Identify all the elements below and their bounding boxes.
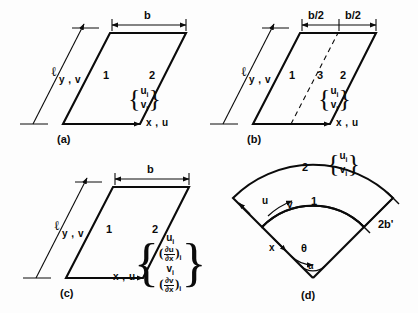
- panel-c-dof-row-v: vi: [166, 263, 174, 277]
- panel-d-theta-label: θ: [301, 243, 307, 254]
- panel-a-dof-close-brace: }: [149, 88, 161, 109]
- panel-c-node-1: 1: [106, 224, 112, 235]
- panel-c-dof-rows: ui (∂u∂x)i vi (∂v∂x)i: [159, 232, 181, 294]
- panel-d-dof-open-brace: {: [327, 153, 339, 174]
- panel-a-dof-vector: { ui vi }: [128, 85, 161, 113]
- panel-b-node-3: 3: [317, 70, 323, 81]
- panel-c-dof-vector: { ui (∂u∂x)i vi (∂v∂x)i }: [134, 232, 206, 294]
- panel-c-y-axis-label: y , v: [62, 229, 84, 239]
- panel-d-radial-edge-right: [313, 227, 364, 278]
- panel-c-x-axis-label: x , u: [113, 272, 136, 282]
- panel-c-dof-close-brace: }: [181, 242, 206, 285]
- panel-b-parallelogram: [253, 33, 376, 124]
- panel-b-caption: (b): [247, 134, 261, 145]
- panel-d-dof-rows: ui vi: [339, 150, 347, 178]
- panel-b-node-2: 2: [340, 70, 346, 81]
- panel-b-node-1: 1: [289, 70, 295, 81]
- panel-d-v-label: v: [287, 200, 293, 210]
- panel-d-caption: (d): [301, 290, 315, 301]
- panel-a-node-2: 2: [149, 70, 155, 81]
- panel-b-b-half-label-right: b/2: [345, 10, 361, 21]
- panel-a-b-label: b: [144, 10, 151, 21]
- panel-d-x-label: x: [269, 243, 275, 253]
- panel-a-dof-open-brace: {: [128, 88, 140, 109]
- panel-b-y-axis-label: y , v: [249, 75, 271, 85]
- panel-b-b-half-label-left: b/2: [308, 10, 324, 21]
- panel-c-dof-row-u: ui: [166, 232, 174, 246]
- panel-b-x-axis-label: x , u: [336, 118, 359, 128]
- panel-d-dof-row-u: ui: [339, 150, 347, 164]
- panel-d-u-label: u: [262, 196, 269, 206]
- panel-d-node-2: 2: [302, 162, 308, 173]
- panel-a-node-1: 1: [103, 70, 109, 81]
- panel-c-dof-row-du-dx: (∂u∂x)i: [159, 246, 181, 263]
- panel-b-dof-close-brace: }: [339, 88, 351, 109]
- panel-c-caption: (c): [60, 288, 73, 299]
- panel-a-dof-row-v: vi: [141, 99, 149, 113]
- panel-b-dof-row-v: vi: [331, 99, 339, 113]
- panel-c-dof-open-brace: {: [134, 242, 159, 285]
- panel-d-node-1: 1: [311, 196, 317, 207]
- panel-d-dof-row-v: vi: [340, 164, 348, 178]
- panel-a-dof-row-u: ui: [140, 85, 148, 99]
- panel-d-dof-vector: { ui vi }: [327, 150, 360, 178]
- panel-d-u-arrow: [239, 203, 250, 214]
- panel-d-thickness-label: 2b': [378, 219, 393, 230]
- panel-a-y-axis-label: y , v: [59, 75, 81, 85]
- panel-a-dof-rows: ui vi: [140, 85, 148, 113]
- panel-b-dof-rows: ui vi: [330, 85, 338, 113]
- panel-b-dof-row-u: ui: [330, 85, 338, 99]
- panel-c-b-label: b: [147, 164, 154, 175]
- panel-d-apex-angle-label: α: [308, 262, 314, 271]
- panel-a-parallelogram: [63, 33, 186, 124]
- figure-element-types: b ℓ y , v x , u 1 2 { ui vi } (a) b/2 b/…: [0, 0, 418, 313]
- panel-d-graphics: [233, 165, 399, 278]
- panel-a-x-axis-label: x , u: [146, 118, 169, 128]
- panel-d-dof-close-brace: }: [348, 153, 360, 174]
- panel-b-dof-open-brace: {: [318, 88, 330, 109]
- panel-a-caption: (a): [57, 134, 70, 145]
- panel-b-dof-vector: { ui vi }: [318, 85, 351, 113]
- panel-c-dof-row-dv-dx: (∂v∂x)i: [159, 277, 181, 294]
